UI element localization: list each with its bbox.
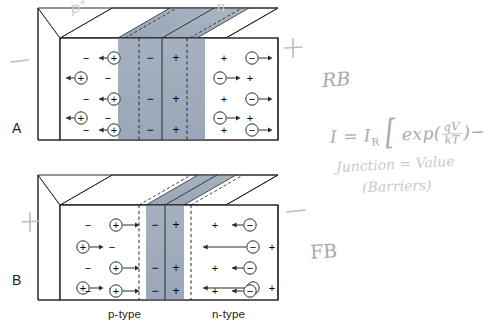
equation-prefactor-subscript: R xyxy=(371,135,380,147)
panel-a-letter: A xyxy=(12,120,21,136)
svg-text:+: + xyxy=(80,241,86,253)
axis-label-p-type: p-type xyxy=(108,308,141,320)
equation-exp: exp xyxy=(401,123,434,144)
svg-text:−: − xyxy=(83,124,89,136)
svg-text:−: − xyxy=(217,72,223,84)
equation-lhs: I xyxy=(330,126,338,146)
svg-text:+: + xyxy=(172,123,179,137)
svg-text:+: + xyxy=(113,219,119,231)
svg-text:−: − xyxy=(105,112,111,124)
note-junction-rest: unction xyxy=(341,156,395,175)
svg-text:+: + xyxy=(212,285,218,297)
svg-text:+: + xyxy=(212,219,218,231)
svg-text:+: + xyxy=(172,218,179,232)
svg-text:+: + xyxy=(172,51,179,65)
svg-text:−: − xyxy=(85,219,91,231)
svg-text:+: + xyxy=(78,72,84,84)
svg-text:−: − xyxy=(247,219,253,231)
equation-equals: = xyxy=(343,126,358,147)
svg-text:−: − xyxy=(85,262,91,274)
handwritten-reverse-bias: RB xyxy=(321,67,351,91)
svg-text:+: + xyxy=(172,92,179,106)
svg-text:−: − xyxy=(146,51,153,65)
panel-a-solid xyxy=(38,8,278,140)
handwritten-diode-equation: I = IR [ exp(qVkT)− xyxy=(329,113,485,150)
svg-text:+: + xyxy=(172,261,179,275)
svg-text:+: + xyxy=(247,112,253,124)
handwritten-label-p-plus: p+ xyxy=(69,0,89,17)
svg-text:−: − xyxy=(249,124,255,136)
svg-text:+: + xyxy=(78,112,84,124)
svg-text:−: − xyxy=(83,52,89,64)
handwritten-label-n: n xyxy=(215,0,227,16)
svg-text:−: − xyxy=(247,285,253,297)
svg-text:+: + xyxy=(247,72,253,84)
svg-text:−: − xyxy=(109,241,115,253)
svg-text:+: + xyxy=(221,124,227,136)
svg-text:−: − xyxy=(146,123,153,137)
equation-paren-open: ( xyxy=(433,123,441,143)
svg-text:−: − xyxy=(249,93,255,105)
handwritten-note-barriers: (Barriers) xyxy=(362,177,432,195)
equation-bracket-open: [ xyxy=(385,111,397,152)
svg-text:+: + xyxy=(111,93,117,105)
svg-text:−: − xyxy=(85,285,91,297)
equation-fraction-denominator: kT xyxy=(442,134,463,146)
note-junction-equals: = xyxy=(399,155,412,172)
svg-text:−: − xyxy=(151,218,158,232)
equation-fraction: qVkT xyxy=(442,121,463,146)
equation-minus-tail: − xyxy=(470,121,485,142)
svg-text:+: + xyxy=(221,93,227,105)
svg-text:+: + xyxy=(111,52,117,64)
svg-text:−: − xyxy=(151,261,158,275)
svg-text:+: + xyxy=(269,241,275,253)
handwritten-forward-bias: FB xyxy=(309,239,337,262)
svg-text:−: − xyxy=(247,262,253,274)
svg-text:−: − xyxy=(151,284,158,298)
note-junction-value: Value xyxy=(415,153,455,171)
svg-text:+: + xyxy=(113,262,119,274)
svg-text:+: + xyxy=(113,285,119,297)
svg-text:−: − xyxy=(83,93,89,105)
svg-text:+: + xyxy=(269,282,275,294)
svg-text:+: + xyxy=(221,52,227,64)
handwritten-p-superscript: + xyxy=(78,0,87,8)
svg-text:−: − xyxy=(105,72,111,84)
svg-text:+: + xyxy=(172,284,179,298)
panel-b-solid xyxy=(38,175,278,300)
svg-text:+: + xyxy=(212,262,218,274)
figure-canvas: − + + − − + + − − xyxy=(0,0,489,325)
svg-text:−: − xyxy=(250,241,256,253)
svg-text:−: − xyxy=(146,92,153,106)
svg-text:−: − xyxy=(249,52,255,64)
svg-text:−: − xyxy=(217,112,223,124)
axis-label-n-type: n-type xyxy=(212,308,245,320)
svg-text:+: + xyxy=(111,124,117,136)
panel-b-letter: B xyxy=(12,272,21,288)
